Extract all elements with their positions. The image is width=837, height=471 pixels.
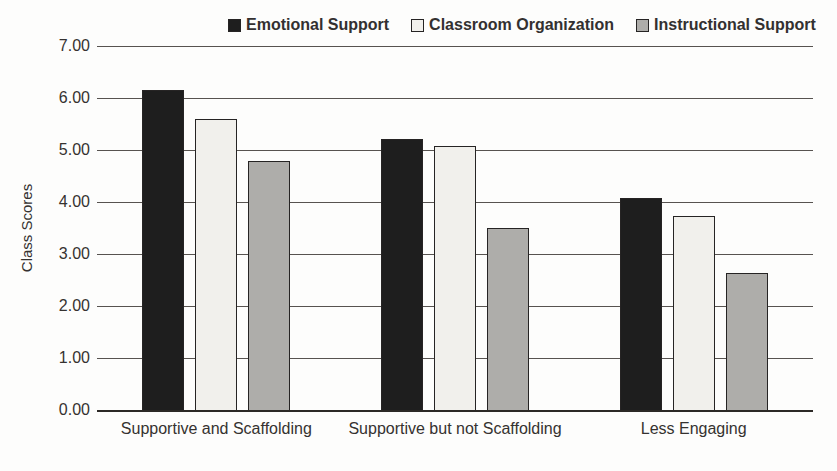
bar-emotional-support-cat2 [620, 198, 662, 410]
bar-classroom-organization-cat1 [434, 146, 476, 410]
bar-classroom-organization-cat0 [195, 119, 237, 410]
x-category-label-supportive-but-not-scaffolding: Supportive but not Scaffolding [348, 420, 561, 438]
legend-label-emotional-support: Emotional Support [246, 16, 389, 34]
y-tick-label: 3.00 [59, 245, 90, 263]
x-category-label-less-engaging: Less Engaging [641, 420, 747, 438]
legend-label-instructional-support: Instructional Support [654, 16, 816, 34]
bar-chart-figure: Emotional Support Classroom Organization… [0, 0, 837, 471]
bar-instructional-support-cat0 [248, 161, 290, 410]
legend-label-classroom-organization: Classroom Organization [429, 16, 614, 34]
legend-item-instructional-support: Instructional Support [636, 16, 816, 34]
y-axis-tick-labels: 7.006.005.004.003.002.001.000.00 [0, 0, 90, 471]
y-tick-label: 7.00 [59, 37, 90, 55]
bar-emotional-support-cat0 [142, 90, 184, 410]
bar-instructional-support-cat2 [726, 273, 768, 410]
gridline [97, 46, 813, 47]
bar-emotional-support-cat1 [381, 139, 423, 410]
y-tick-label: 2.00 [59, 297, 90, 315]
legend-swatch-classroom-organization-icon [411, 19, 424, 32]
chart-legend: Emotional Support Classroom Organization… [228, 16, 816, 34]
y-tick-label: 6.00 [59, 89, 90, 107]
plot-area [97, 46, 813, 412]
y-tick-label: 4.00 [59, 193, 90, 211]
bar-classroom-organization-cat2 [673, 216, 715, 410]
y-tick-label: 5.00 [59, 141, 90, 159]
legend-swatch-emotional-support-icon [228, 19, 241, 32]
y-tick-label: 1.00 [59, 349, 90, 367]
x-category-label-supportive-and-scaffolding: Supportive and Scaffolding [121, 420, 312, 438]
legend-item-classroom-organization: Classroom Organization [411, 16, 614, 34]
x-axis-labels: Supportive and Scaffolding Supportive bu… [97, 412, 813, 452]
bar-instructional-support-cat1 [487, 228, 529, 410]
legend-swatch-instructional-support-icon [636, 19, 649, 32]
gridline [97, 98, 813, 99]
legend-item-emotional-support: Emotional Support [228, 16, 389, 34]
y-tick-label: 0.00 [59, 401, 90, 419]
